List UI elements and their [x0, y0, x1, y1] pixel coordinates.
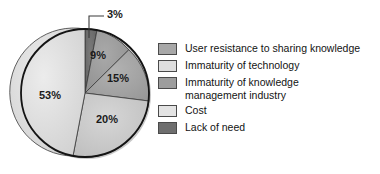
- legend-swatch-icon: [158, 122, 177, 134]
- legend-item-label: Cost: [185, 104, 207, 117]
- legend-item-label: Immaturity of knowledge management indus…: [185, 76, 299, 101]
- slice-label-20-percent: 20%: [96, 113, 118, 125]
- legend-swatch-icon: [158, 105, 177, 117]
- legend-item-km-industry[interactable]: Immaturity of knowledge management indus…: [158, 76, 378, 101]
- legend-item-label: User resistance to sharing knowledge: [185, 42, 360, 55]
- legend-item-label: Immaturity of technology: [185, 59, 299, 72]
- legend-item-lack-of-need[interactable]: Lack of need: [158, 121, 378, 135]
- pie-chart-figure: 3% 9% 15% 20% 53% User resistance to sha…: [0, 0, 380, 174]
- slice-label-9-percent: 9%: [90, 49, 106, 61]
- slice-label-3-percent: 3%: [107, 8, 123, 20]
- slice-label-53-percent: 53%: [39, 89, 61, 101]
- legend-swatch-icon: [158, 77, 177, 89]
- slice-label-15-percent: 15%: [107, 72, 129, 84]
- legend-item-immaturity-technology[interactable]: Immaturity of technology: [158, 59, 378, 73]
- legend-item-user-resistance[interactable]: User resistance to sharing knowledge: [158, 42, 378, 56]
- legend-swatch-icon: [158, 43, 177, 55]
- legend-item-cost[interactable]: Cost: [158, 104, 378, 118]
- legend-swatch-icon: [158, 60, 177, 72]
- legend-item-label: Lack of need: [185, 121, 245, 134]
- pie-slice-cost[interactable]: [73, 93, 149, 157]
- chart-legend: User resistance to sharing knowledge Imm…: [158, 42, 378, 138]
